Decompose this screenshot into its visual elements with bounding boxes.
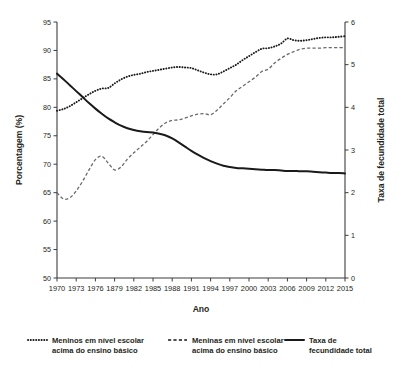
legend-label-1-line1: Meninas em nível escolar	[192, 336, 284, 345]
right-axis-tick-label: 2	[351, 188, 355, 197]
left-axis-tick-label: 55	[43, 245, 51, 254]
y2-axis-title: Taxa de fecundidade total	[376, 98, 386, 203]
left-axis-tick-label: 65	[43, 188, 51, 197]
x-axis-tick-label: 1970	[49, 284, 65, 293]
right-axis-tick-label: 4	[351, 103, 355, 112]
x-axis-tick-label: 1879	[106, 284, 122, 293]
legend-label-0-line2: acima do ensino básico	[52, 346, 138, 355]
left-axis-tick-label: 90	[43, 46, 51, 55]
right-axis-tick-label: 3	[351, 146, 355, 155]
x-axis-tick-label: 1988	[164, 284, 180, 293]
x-axis-tick-label: 2015	[337, 284, 353, 293]
x-axis-tick-label: 1982	[126, 284, 142, 293]
legend-label-1-line2: acima do ensino básico	[192, 346, 278, 355]
x-axis-tick-label: 2012	[318, 284, 334, 293]
right-axis-tick-label: 5	[351, 60, 355, 69]
legend-label-2-line1: Taxa de	[309, 336, 337, 345]
x-axis-tick-label: 1991	[183, 284, 199, 293]
left-axis-tick-label: 60	[43, 217, 51, 226]
x-axis-tick-label: 1994	[202, 284, 218, 293]
chart-figure: 50556065707580859095 0123456 19701973197…	[0, 0, 405, 372]
x-axis-tick-label: 1985	[145, 284, 161, 293]
left-axis-tick-label: 50	[43, 274, 51, 283]
x-axis-tick-label: 2000	[241, 284, 257, 293]
x-axis-tick-label: 1997	[222, 284, 238, 293]
left-axis-tick-label: 95	[43, 18, 51, 27]
legend-label-2-line2: fecundidade total	[309, 346, 372, 355]
x-axis-tick-label: 2003	[260, 284, 276, 293]
left-axis-tick-label: 80	[43, 103, 51, 112]
left-axis-tick-label: 75	[43, 131, 51, 140]
y-axis-title: Porcentagem (%)	[14, 115, 24, 185]
x-axis-tick-label: 1976	[87, 284, 103, 293]
chart-background	[0, 0, 405, 372]
right-axis-tick-label: 6	[351, 18, 355, 27]
line-chart: 50556065707580859095 0123456 19701973197…	[0, 0, 405, 372]
x-axis-title: Ano	[193, 304, 210, 314]
right-axis-tick-label: 1	[351, 231, 355, 240]
left-axis-tick-label: 70	[43, 160, 51, 169]
right-axis-tick-label: 0	[351, 274, 355, 283]
x-axis-tick-label: 1973	[68, 284, 84, 293]
chart-legend: Meninos em nível escolaracima do ensino …	[28, 336, 372, 355]
legend-label-0-line1: Meninos em nível escolar	[52, 336, 144, 345]
x-axis-tick-label: 2006	[279, 284, 295, 293]
x-axis-tick-label: 2009	[298, 284, 314, 293]
left-axis-tick-label: 85	[43, 74, 51, 83]
